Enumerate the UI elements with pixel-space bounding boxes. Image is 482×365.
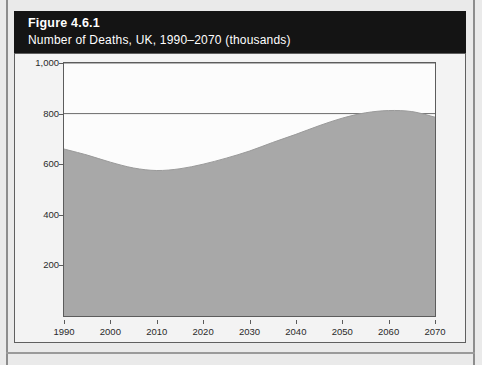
x-tick-mark-2060 <box>389 320 390 324</box>
x-tick-mark-2000 <box>110 320 111 324</box>
page-frame-right <box>473 0 475 365</box>
figure-number: Figure 4.6.1 <box>28 16 466 31</box>
chart-card: 2004006008001,000 1990200020102020203020… <box>14 53 466 343</box>
x-tick-mark-2050 <box>342 320 343 324</box>
x-tick-mark-2070 <box>435 320 436 324</box>
y-axis: 2004006008001,000 <box>15 62 59 317</box>
x-tick-label-2010: 2010 <box>146 326 167 337</box>
plot-area <box>63 62 436 317</box>
x-tick-mark-2010 <box>157 320 158 324</box>
y-tick-label-400: 400 <box>15 210 59 220</box>
x-tick-label-2070: 2070 <box>424 326 445 337</box>
figure-header: Figure 4.6.1 Number of Deaths, UK, 1990–… <box>14 11 466 53</box>
x-tick-label-2060: 2060 <box>378 326 399 337</box>
x-tick-mark-2020 <box>203 320 204 324</box>
chart-plot-wrapper: 2004006008001,000 1990200020102020203020… <box>15 54 465 342</box>
area-series-fill <box>64 110 435 316</box>
figure-page: Figure 4.6.1 Number of Deaths, UK, 1990–… <box>0 0 482 365</box>
area-chart-svg <box>64 63 435 316</box>
y-tick-label-800: 800 <box>15 109 59 119</box>
x-tick-label-2050: 2050 <box>332 326 353 337</box>
x-tick-label-2000: 2000 <box>100 326 121 337</box>
figure-caption: Number of Deaths, UK, 1990–2070 (thousan… <box>28 32 466 48</box>
x-tick-mark-1990 <box>64 320 65 324</box>
x-tick-label-2030: 2030 <box>239 326 260 337</box>
x-axis: 199020002010202020302040205020602070 <box>63 320 436 342</box>
x-tick-mark-2040 <box>296 320 297 324</box>
page-frame-left <box>6 0 8 365</box>
y-tick-label-200: 200 <box>15 260 59 270</box>
y-tick-label-600: 600 <box>15 159 59 169</box>
gridlines <box>64 63 435 114</box>
x-tick-mark-2030 <box>250 320 251 324</box>
x-tick-label-1990: 1990 <box>53 326 74 337</box>
y-tick-label-1000: 1,000 <box>15 58 59 68</box>
x-tick-label-2040: 2040 <box>285 326 306 337</box>
page-frame-bottom <box>6 352 475 354</box>
x-tick-label-2020: 2020 <box>193 326 214 337</box>
